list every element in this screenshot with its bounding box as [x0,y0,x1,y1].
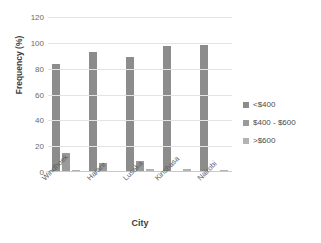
gridline [48,120,232,121]
x-axis-tick-cell: Kinshasa [158,172,195,212]
gridline [48,43,232,44]
y-axis-tick-20: 20 [18,142,44,151]
legend-item-1[interactable]: $400 - $600 [243,118,296,127]
legend-swatch-icon [243,120,249,126]
gridline [48,95,232,96]
x-axis-tick-labels: WindhoekHarareLusakaKinshasaNairobi [48,172,232,212]
legend-label: $400 - $600 [253,118,296,127]
x-axis-tick-cell: Nairobi [195,172,232,212]
y-axis-tick-120: 120 [18,13,44,22]
x-axis-tick-cell: Lusaka [122,172,159,212]
plot-area [48,17,232,172]
y-axis-tick-60: 60 [18,90,44,99]
bar [163,46,171,172]
bar [126,57,134,172]
x-axis-tick-cell: Harare [85,172,122,212]
bar [89,52,97,172]
y-axis-tick-100: 100 [18,38,44,47]
legend-label: <$400 [253,100,275,109]
y-axis-tick-labels: 120100806040200 [18,0,44,243]
x-axis-tick-cell: Windhoek [48,172,85,212]
legend-swatch-icon [243,138,249,144]
y-axis-tick-80: 80 [18,64,44,73]
gridline [48,17,232,18]
bar-chart: Frequency (%) 120100806040200 WindhoekHa… [0,0,321,243]
chart-legend: <$400$400 - $600>$600 [243,100,296,145]
legend-label: >$600 [253,136,275,145]
legend-item-0[interactable]: <$400 [243,100,296,109]
legend-item-2[interactable]: >$600 [243,136,296,145]
gridline [48,146,232,147]
legend-swatch-icon [243,102,249,108]
y-axis-tick-40: 40 [18,116,44,125]
bar [200,45,208,172]
x-axis-title: City [48,218,232,228]
gridline [48,69,232,70]
